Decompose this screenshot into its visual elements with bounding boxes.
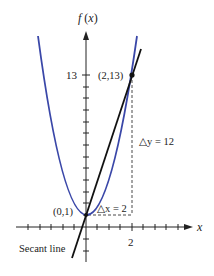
- delta-y-label: △y = 12: [139, 136, 174, 147]
- y-axis-arrow-icon: [83, 31, 89, 40]
- x-axis-label: x: [196, 220, 203, 234]
- x-tick-2-label: 2: [128, 236, 134, 248]
- x-axis: [16, 223, 193, 231]
- parabola-curve: [38, 36, 137, 215]
- y-axis-label: f (x): [78, 11, 98, 25]
- delta-x-label: △x = 2: [97, 203, 127, 214]
- point-vertex-label: (0,1): [53, 206, 74, 218]
- secant-line-label: Secant line: [19, 243, 66, 254]
- point-0-1: [84, 213, 88, 217]
- y-tick-13-label: 13: [66, 69, 78, 81]
- delta-guides: [88, 80, 132, 215]
- x-axis-arrow-icon: [184, 224, 193, 230]
- point-top-label: (2,13): [98, 70, 124, 82]
- point-2-13: [129, 72, 134, 77]
- secant-diagram: f (x) x 13 2 (2,13) (0,1) △x = 2 △y = 12…: [0, 0, 214, 276]
